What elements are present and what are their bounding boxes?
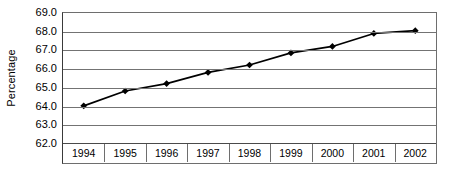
plot-area: [62, 12, 437, 143]
gridline: [63, 107, 436, 108]
gridline: [63, 32, 436, 33]
data-point-marker: [246, 62, 253, 69]
x-tick-label: 1995: [104, 143, 145, 163]
data-point-marker: [329, 43, 336, 50]
line-chart: Percentage 69.068.067.066.065.064.063.06…: [0, 0, 452, 170]
y-tick-label: 63.0: [36, 118, 57, 130]
gridline: [63, 88, 436, 89]
y-tick-label: 68.0: [36, 25, 57, 37]
y-axis-tick-labels: 69.068.067.066.065.064.063.062.0: [22, 12, 60, 143]
data-point-marker: [163, 80, 170, 87]
y-axis-title: Percentage: [0, 12, 22, 143]
x-axis-tick-labels: 199419951996199719981999200020012002: [62, 143, 437, 164]
y-tick-label: 66.0: [36, 62, 57, 74]
y-tick-label: 64.0: [36, 100, 57, 112]
gridline: [63, 69, 436, 70]
data-point-marker: [412, 27, 419, 34]
x-tick-label: 1997: [187, 143, 228, 163]
x-tick-label: 1994: [63, 143, 104, 163]
y-tick-label: 67.0: [36, 43, 57, 55]
x-tick-label: 1996: [146, 143, 187, 163]
x-tick-label: 1999: [270, 143, 311, 163]
x-tick-label: 2001: [353, 143, 394, 163]
y-tick-label: 62.0: [36, 137, 57, 149]
x-tick-label: 2000: [312, 143, 353, 163]
x-tick-label: 2002: [395, 143, 436, 163]
gridline: [63, 125, 436, 126]
y-tick-label: 69.0: [36, 6, 57, 18]
x-tick-label: 1998: [229, 143, 270, 163]
gridline: [63, 50, 436, 51]
y-axis-title-label: Percentage: [5, 49, 17, 106]
y-tick-label: 65.0: [36, 81, 57, 93]
